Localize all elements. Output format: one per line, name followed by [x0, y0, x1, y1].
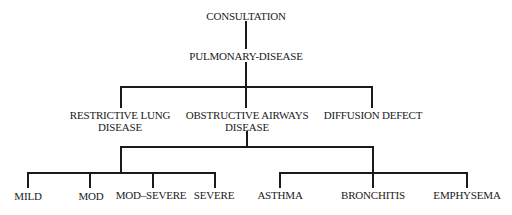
node-label: MOD–SEVERE [116, 189, 187, 201]
node-severe: SEVERE [194, 189, 234, 201]
node-restrictive-lung-disease: RESTRICTIVE LUNG DISEASE [70, 109, 170, 133]
node-label: BRONCHITIS [341, 189, 405, 201]
node-mild: MILD [14, 190, 41, 202]
node-label: MOD [78, 190, 103, 202]
node-label-line: DIFFUSION DEFECT [324, 109, 423, 121]
node-pulmonary-disease: PULMONARY-DISEASE [189, 50, 302, 62]
node-label: SEVERE [194, 189, 234, 201]
node-label-line: RESTRICTIVE LUNG [70, 109, 170, 121]
node-label: MILD [14, 190, 41, 202]
node-consultation: CONSULTATION [206, 10, 285, 22]
node-label: PULMONARY-DISEASE [189, 50, 302, 62]
node-diffusion-defect: DIFFUSION DEFECT [324, 109, 423, 121]
node-label: ASTHMA [257, 189, 302, 201]
node-emphysema: EMPHYSEMA [433, 189, 500, 201]
node-label: EMPHYSEMA [433, 189, 500, 201]
node-mod-severe: MOD–SEVERE [116, 189, 187, 201]
node-label-line: OBSTRUCTIVE AIRWAYS [186, 109, 309, 121]
node-label-line: DISEASE [70, 121, 170, 133]
node-bronchitis: BRONCHITIS [341, 189, 405, 201]
node-label-line: DISEASE [186, 121, 309, 133]
node-obstructive-airways-disease: OBSTRUCTIVE AIRWAYS DISEASE [186, 109, 309, 133]
node-mod: MOD [78, 190, 103, 202]
node-asthma: ASTHMA [257, 189, 302, 201]
node-label: CONSULTATION [206, 10, 285, 22]
tree-connectors [0, 0, 512, 215]
